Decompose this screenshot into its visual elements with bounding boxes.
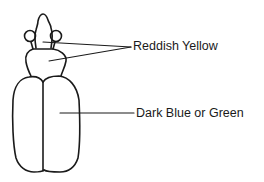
label-dark-blue-or-green: Dark Blue or Green	[136, 107, 244, 120]
beetle-illustration	[0, 0, 264, 182]
beetle-diagram: Reddish Yellow Dark Blue or Green	[0, 0, 264, 182]
beetle-eye-left	[25, 31, 36, 42]
beetle-elytron-right	[43, 76, 80, 172]
leader-line-pronotum	[49, 47, 131, 61]
label-reddish-yellow: Reddish Yellow	[133, 40, 218, 53]
beetle-elytron-left	[13, 77, 44, 172]
leader-line-head	[43, 42, 131, 47]
beetle-pronotum	[26, 49, 66, 76]
